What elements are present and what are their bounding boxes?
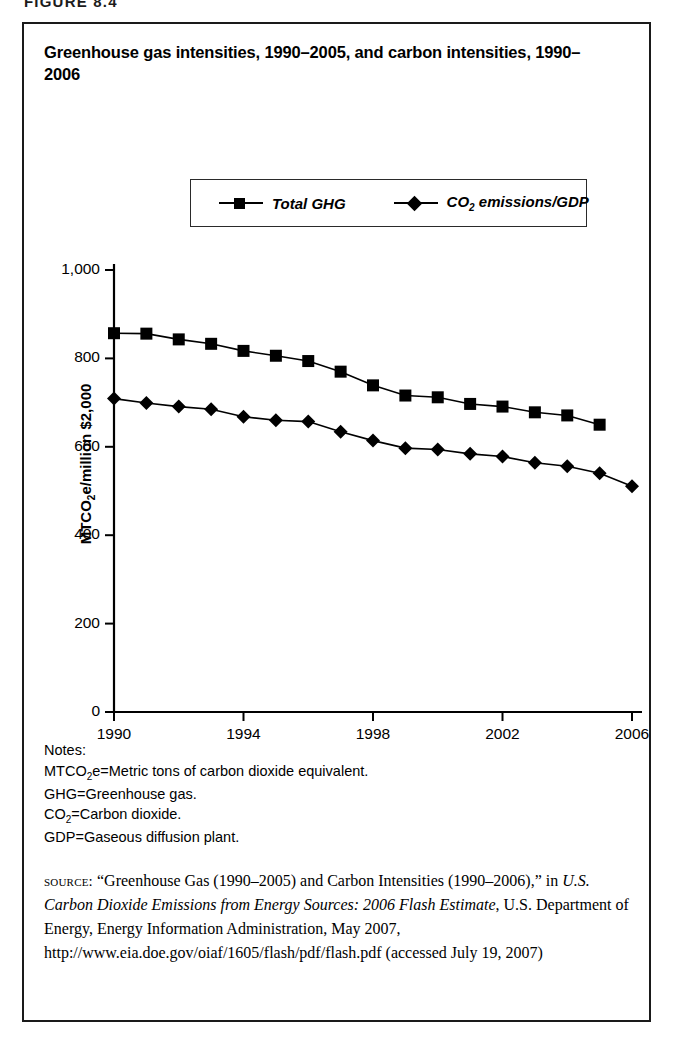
data-point-square bbox=[529, 406, 541, 418]
data-point-square bbox=[335, 366, 347, 378]
data-point-diamond bbox=[366, 434, 380, 448]
figure-page: FIGURE 8.4 Greenhouse gas intensities, 1… bbox=[0, 0, 675, 1042]
data-point-diamond bbox=[139, 396, 153, 410]
notes-line-ghg: GHG=Greenhouse gas. bbox=[44, 784, 624, 805]
y-axis-tick-label: 200 bbox=[30, 614, 100, 632]
data-point-square bbox=[238, 345, 250, 357]
data-point-diamond bbox=[625, 479, 639, 493]
data-point-square bbox=[432, 391, 444, 403]
data-point-square bbox=[173, 333, 185, 345]
data-point-square bbox=[594, 419, 606, 431]
y-axis-tick-label: 0 bbox=[30, 702, 100, 720]
data-point-square bbox=[108, 327, 120, 339]
figure-number: FIGURE 8.4 bbox=[24, 0, 118, 10]
y-axis-tick-label: 400 bbox=[30, 525, 100, 543]
notes-line-co2: CO2=Carbon dioxide. bbox=[44, 804, 624, 827]
data-point-diamond bbox=[431, 442, 445, 456]
data-point-diamond bbox=[301, 415, 315, 429]
data-point-diamond bbox=[237, 410, 251, 424]
notes-line3-post: =Carbon dioxide. bbox=[71, 806, 181, 822]
data-point-diamond bbox=[107, 392, 121, 406]
data-point-diamond bbox=[398, 441, 412, 455]
data-point-square bbox=[140, 328, 152, 340]
notes-heading: Notes: bbox=[44, 740, 624, 761]
data-point-diamond bbox=[204, 402, 218, 416]
source-text-1: “Greenhouse Gas (1990–2005) and Carbon I… bbox=[93, 872, 562, 889]
data-point-diamond bbox=[593, 466, 607, 480]
figure-source: source: “Greenhouse Gas (1990–2005) and … bbox=[44, 869, 634, 965]
notes-line1-post: e=Metric tons of carbon dioxide equivale… bbox=[92, 763, 368, 779]
notes-line1-pre: MTCO bbox=[44, 763, 87, 779]
data-point-diamond bbox=[496, 450, 510, 464]
notes-line3-pre: CO bbox=[44, 806, 66, 822]
data-point-diamond bbox=[334, 425, 348, 439]
figure-notes: Notes: MTCO2e=Metric tons of carbon diox… bbox=[44, 740, 624, 848]
notes-line-gdp: GDP=Gaseous diffusion plant. bbox=[44, 827, 624, 848]
data-point-diamond bbox=[528, 456, 542, 470]
data-point-square bbox=[205, 338, 217, 350]
data-point-square bbox=[302, 355, 314, 367]
figure-frame: Greenhouse gas intensities, 1990–2005, a… bbox=[22, 22, 651, 1022]
data-point-diamond bbox=[172, 400, 186, 414]
source-label: source: bbox=[44, 873, 93, 889]
series-line-total-ghg bbox=[114, 333, 600, 424]
data-point-square bbox=[497, 401, 509, 413]
data-point-square bbox=[270, 350, 282, 362]
y-axis-tick-label: 800 bbox=[30, 348, 100, 366]
data-point-diamond bbox=[560, 459, 574, 473]
data-point-square bbox=[367, 379, 379, 391]
data-point-diamond bbox=[269, 413, 283, 427]
y-axis-tick-label: 1,000 bbox=[30, 260, 100, 278]
notes-line-mtco2e: MTCO2e=Metric tons of carbon dioxide equ… bbox=[44, 761, 624, 784]
y-axis-tick-label: 600 bbox=[30, 437, 100, 455]
data-point-square bbox=[561, 409, 573, 421]
data-point-square bbox=[399, 390, 411, 402]
data-point-square bbox=[464, 398, 476, 410]
data-point-diamond bbox=[463, 447, 477, 461]
